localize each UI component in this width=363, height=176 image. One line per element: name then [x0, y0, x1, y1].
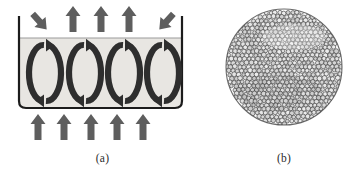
benard-cell	[271, 14, 276, 19]
benard-cell	[272, 49, 276, 53]
benard-cell	[263, 15, 267, 19]
benard-cell	[266, 61, 270, 65]
benard-cell	[255, 26, 259, 30]
benard-cell	[283, 68, 287, 72]
benard-cell	[321, 49, 325, 53]
benard-cell	[335, 57, 339, 61]
benard-cell	[237, 49, 241, 53]
benard-cell	[330, 65, 334, 69]
benard-cell	[247, 37, 251, 41]
heat-arrow-bottom	[84, 114, 99, 140]
figure-container: (a) (b)	[0, 0, 363, 176]
benard-cell	[261, 52, 266, 57]
heat-arrow-bottom	[31, 114, 46, 140]
benard-cell	[243, 30, 247, 34]
benard-cell	[270, 22, 275, 27]
benard-cell	[261, 115, 265, 119]
benard-cell	[289, 14, 293, 18]
benard-cell	[328, 41, 332, 45]
benard-cell	[256, 30, 260, 34]
benard-cell	[335, 75, 340, 80]
benard-cell	[284, 53, 288, 57]
benard-cell	[296, 114, 301, 119]
benard-cell	[337, 61, 341, 65]
benard-cell	[270, 69, 274, 73]
benard-cell	[292, 115, 296, 119]
benard-cell	[332, 53, 336, 57]
heat-arrow-top	[66, 6, 81, 32]
benard-cell	[306, 106, 311, 111]
benard-cell	[253, 45, 257, 49]
benard-cell	[332, 45, 336, 49]
benard-cell	[244, 60, 249, 65]
benard-cell	[301, 68, 305, 72]
benard-cell	[307, 72, 312, 77]
benard-cell	[290, 119, 294, 123]
heat-arrow-top	[94, 6, 109, 32]
benard-cell	[268, 56, 273, 61]
benard-cell	[232, 53, 236, 57]
shading-band-upper	[262, 24, 326, 50]
benard-cell	[297, 68, 302, 73]
inflow-arrow-shape	[154, 9, 179, 35]
benard-cell	[229, 56, 234, 61]
heat-arrow-top	[122, 6, 137, 32]
benard-cell	[316, 72, 320, 76]
panel-b-benard-cells: (b)	[205, 0, 363, 176]
benard-cell	[305, 114, 310, 119]
benard-cell	[261, 22, 265, 26]
benard-cell	[297, 60, 301, 64]
benard-cell	[326, 65, 330, 69]
benard-cell	[316, 64, 321, 69]
benard-cell	[242, 49, 246, 53]
benard-cell	[312, 110, 316, 114]
benard-cell	[294, 119, 298, 123]
benard-cell	[322, 76, 327, 81]
benard-cell	[282, 18, 286, 22]
benard-cell	[321, 26, 325, 30]
benard-cell	[326, 37, 330, 41]
benard-cell	[250, 26, 254, 30]
benard-cell	[291, 57, 295, 61]
benard-cell	[232, 72, 237, 77]
benard-cell	[236, 34, 240, 38]
benard-cell	[306, 53, 310, 57]
benard-cell	[271, 118, 275, 122]
benard-cell	[288, 114, 292, 118]
inflow-arrow-left	[27, 9, 52, 35]
benard-cell	[306, 61, 310, 65]
benard-cell	[321, 64, 326, 69]
benard-cell	[259, 64, 263, 68]
benard-cell	[237, 57, 242, 62]
benard-cell	[284, 60, 288, 64]
panel-a-drawing	[0, 0, 205, 150]
benard-cell	[314, 22, 318, 26]
benard-cell	[289, 72, 294, 77]
panel-b-drawing	[205, 0, 363, 150]
shading-band-lower	[233, 76, 323, 111]
benard-cell	[260, 57, 264, 61]
benard-cell	[303, 56, 308, 61]
benard-cell	[329, 73, 334, 78]
heat-arrow-bottom	[57, 114, 72, 140]
benard-cell	[282, 122, 287, 127]
heat-arrow-bottom	[110, 114, 125, 140]
benard-cell	[330, 77, 334, 81]
benard-cell	[254, 72, 259, 77]
benard-cell	[264, 64, 268, 68]
benard-cell	[278, 57, 282, 61]
benard-cell	[249, 53, 253, 57]
benard-cell	[333, 81, 337, 85]
heat-arrow-bottom	[136, 114, 151, 140]
inflow-arrow-right	[154, 9, 179, 35]
benard-cell	[310, 68, 314, 72]
inflow-arrow-shape	[27, 9, 52, 35]
benard-cell	[232, 64, 237, 69]
benard-cell	[279, 68, 283, 72]
benard-cell	[290, 64, 294, 68]
panel-b-caption: (b)	[205, 152, 363, 164]
benard-cell	[254, 60, 258, 64]
benard-cell	[336, 68, 340, 72]
benard-cell	[239, 69, 243, 73]
benard-cell	[294, 73, 298, 77]
